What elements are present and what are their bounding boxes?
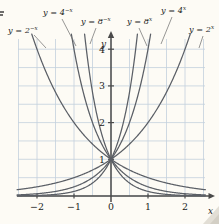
x-tick-label: 1 [145, 201, 151, 212]
y-tick-label: 2 [99, 117, 105, 128]
x-tick-label: 0 [108, 201, 114, 212]
exponential-functions-graph: 1234−2−1012 y = 2−xy = 4−xy = 8−xy = 8xy… [0, 0, 219, 224]
series-label-text: y = 2x [188, 24, 215, 34]
y-tick-label: 3 [99, 80, 105, 91]
series-label-text: y = 4x [160, 5, 187, 15]
figure-background [0, 0, 219, 224]
axis-name-y: y [100, 39, 107, 49]
x-tick-label: 2 [182, 201, 188, 212]
y-tick-label: 1 [99, 154, 105, 165]
x-tick-label: −2 [30, 201, 44, 212]
series-label-text: y = 8x [126, 16, 153, 26]
x-tick-label: −1 [67, 201, 81, 212]
svg-text:y: y [100, 39, 107, 49]
